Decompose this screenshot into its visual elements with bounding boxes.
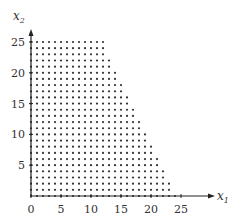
- lattice-point: [84, 103, 86, 105]
- lattice-point: [78, 127, 80, 129]
- x-tick-label: 0: [28, 203, 35, 216]
- lattice-point: [114, 121, 116, 123]
- lattice-point: [54, 109, 56, 111]
- lattice-point: [36, 53, 38, 55]
- x-tick-label: 25: [174, 203, 188, 216]
- lattice-point: [132, 152, 134, 154]
- lattice-point: [42, 96, 44, 98]
- lattice-point: [84, 59, 86, 61]
- lattice-point: [84, 170, 86, 172]
- axis-labels: x2 x1: [13, 9, 229, 205]
- lattice-point: [84, 183, 86, 185]
- lattice-point: [66, 96, 68, 98]
- lattice-point: [36, 109, 38, 111]
- lattice-point: [60, 72, 62, 74]
- lattice-point: [84, 176, 86, 178]
- lattice-point: [84, 109, 86, 111]
- lattice-point: [48, 59, 50, 61]
- lattice-point: [84, 164, 86, 166]
- lattice-point: [90, 53, 92, 55]
- lattice-point: [78, 72, 80, 74]
- lattice-point: [102, 183, 104, 185]
- lattice-point: [120, 158, 122, 160]
- lattice-point: [60, 189, 62, 191]
- lattice-point: [60, 127, 62, 129]
- lattice-point: [42, 152, 44, 154]
- lattice-point: [66, 183, 68, 185]
- lattice-point: [126, 183, 128, 185]
- lattice-point: [138, 189, 140, 191]
- lattice-point: [108, 139, 110, 141]
- lattice-point: [132, 183, 134, 185]
- lattice-point: [114, 84, 116, 86]
- lattice-point: [78, 103, 80, 105]
- y-tick-label: 20: [11, 67, 25, 80]
- lattice-point: [114, 152, 116, 154]
- lattice-point: [162, 189, 164, 191]
- lattice-point: [114, 90, 116, 92]
- lattice-point: [78, 96, 80, 98]
- lattice-point: [66, 53, 68, 55]
- lattice-point: [60, 103, 62, 105]
- lattice-point: [42, 90, 44, 92]
- lattice-point: [138, 176, 140, 178]
- lattice-point: [72, 109, 74, 111]
- lattice-point: [120, 109, 122, 111]
- x-tick-label: 15: [114, 203, 128, 216]
- lattice-point: [54, 47, 56, 49]
- lattice-point: [36, 78, 38, 80]
- y-tick-label: 5: [18, 159, 25, 172]
- lattice-point: [78, 139, 80, 141]
- lattice-point: [42, 146, 44, 148]
- lattice-point: [66, 84, 68, 86]
- lattice-point: [114, 133, 116, 135]
- lattice-point: [42, 189, 44, 191]
- lattice-point: [102, 139, 104, 141]
- lattice-point: [42, 170, 44, 172]
- lattice-point: [54, 164, 56, 166]
- lattice-point: [108, 109, 110, 111]
- lattice-point: [120, 84, 122, 86]
- lattice-point: [114, 164, 116, 166]
- lattice-point: [126, 115, 128, 117]
- lattice-point: [114, 103, 116, 105]
- lattice-point: [54, 90, 56, 92]
- lattice-point: [72, 170, 74, 172]
- lattice-point: [48, 90, 50, 92]
- lattice-point: [156, 158, 158, 160]
- lattice-point: [90, 47, 92, 49]
- lattice-point: [54, 121, 56, 123]
- feasible-region-chart: 0510152025510152025 x2 x1: [0, 0, 239, 220]
- lattice-point: [126, 189, 128, 191]
- lattice-point: [84, 78, 86, 80]
- lattice-point: [138, 139, 140, 141]
- lattice-point: [72, 47, 74, 49]
- lattice-point: [36, 103, 38, 105]
- lattice-point: [60, 47, 62, 49]
- lattice-point: [72, 176, 74, 178]
- lattice-point: [48, 41, 50, 43]
- lattice-point: [48, 152, 50, 154]
- lattice-point: [126, 103, 128, 105]
- lattice-point: [96, 183, 98, 185]
- lattice-point: [84, 139, 86, 141]
- lattice-point: [132, 189, 134, 191]
- lattice-point: [84, 96, 86, 98]
- lattice-point: [102, 127, 104, 129]
- lattice-point: [90, 176, 92, 178]
- lattice-point: [102, 189, 104, 191]
- y-tick-label: 25: [11, 36, 25, 49]
- lattice-point: [78, 109, 80, 111]
- lattice-point: [138, 133, 140, 135]
- lattice-point: [60, 96, 62, 98]
- lattice-point: [78, 133, 80, 135]
- lattice-point: [60, 170, 62, 172]
- lattice-point: [42, 41, 44, 43]
- lattice-point: [60, 146, 62, 148]
- lattice-point: [102, 103, 104, 105]
- lattice-point: [78, 78, 80, 80]
- lattice-point: [36, 47, 38, 49]
- lattice-point: [114, 96, 116, 98]
- lattice-point: [96, 115, 98, 117]
- lattice-point: [72, 41, 74, 43]
